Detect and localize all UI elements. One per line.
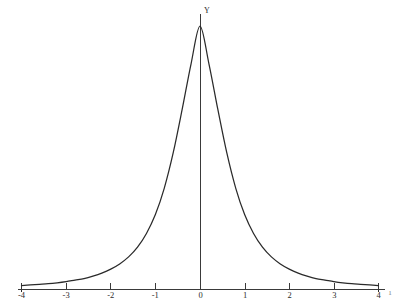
x-axis-tick-labels: -4 -3 -2 -1 0 1 2 3 4 (18, 290, 381, 300)
x-tick-label: -2 (107, 290, 114, 300)
x-tick-label: -1 (152, 290, 159, 300)
x-tick-label: 4 (376, 290, 381, 300)
x-tick-label: -4 (18, 290, 26, 300)
chart-figure: -4 -3 -2 -1 0 1 2 3 4 Y 1 (0, 0, 397, 307)
density-chart-svg: -4 -3 -2 -1 0 1 2 3 4 Y 1 (0, 0, 397, 307)
y-axis-label: Y (204, 6, 210, 15)
x-tick-label: -3 (63, 290, 70, 300)
corner-note: 1 (388, 289, 392, 297)
x-tick-label: 1 (243, 290, 247, 300)
x-tick-label: 3 (332, 290, 336, 300)
x-tick-label: 2 (288, 290, 292, 300)
x-axis-ticks (22, 283, 379, 290)
x-tick-label: 0 (198, 290, 202, 300)
